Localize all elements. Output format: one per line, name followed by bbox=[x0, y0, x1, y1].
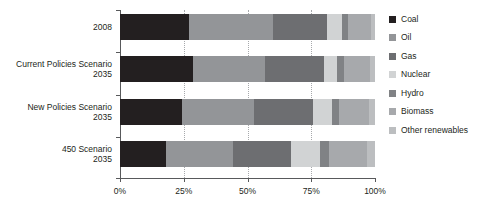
x-tick bbox=[184, 178, 185, 182]
bar-segment bbox=[339, 99, 368, 125]
category-label-0-line2: 2008 bbox=[93, 22, 112, 33]
bar-segment bbox=[291, 141, 320, 167]
bar-segment bbox=[369, 99, 375, 125]
category-axis-labels: 2008 Current Policies Scenario 2035 New … bbox=[0, 0, 118, 208]
x-tick-label: 100% bbox=[364, 186, 386, 196]
legend-swatch-icon bbox=[389, 71, 396, 78]
legend-swatch-icon bbox=[389, 16, 396, 23]
x-tick-label: 25% bbox=[175, 186, 192, 196]
bar-segment bbox=[370, 56, 375, 82]
stacked-bar-chart: 2008 Current Policies Scenario 2035 New … bbox=[0, 0, 484, 208]
bar-segment bbox=[344, 56, 370, 82]
y-tick bbox=[116, 52, 120, 53]
bar-segment bbox=[166, 141, 234, 167]
bar-segment bbox=[120, 99, 182, 125]
legend-label: Nuclear bbox=[401, 70, 430, 79]
bar-segment bbox=[193, 56, 266, 82]
legend-item: Hydro bbox=[389, 84, 484, 103]
category-label-2-line2: 2035 bbox=[27, 112, 112, 123]
bar-segment bbox=[313, 99, 332, 125]
bar-segment bbox=[348, 14, 371, 40]
category-label-2: New Policies Scenario 2035 bbox=[27, 102, 112, 123]
legend-swatch-icon bbox=[389, 53, 396, 60]
legend-swatch-icon bbox=[389, 127, 396, 134]
category-label-3: 450 Scenario 2035 bbox=[62, 144, 112, 165]
bar-row bbox=[120, 14, 375, 40]
legend-swatch-icon bbox=[389, 90, 396, 97]
legend-swatch-icon bbox=[389, 108, 396, 115]
category-label-1-line1: Current Policies Scenario bbox=[16, 59, 112, 70]
legend-item: Oil bbox=[389, 29, 484, 48]
plot-area: 0%25%50%75%100% bbox=[120, 10, 375, 178]
legend: CoalOilGasNuclearHydroBiomassOther renew… bbox=[389, 10, 484, 140]
legend-item: Coal bbox=[389, 10, 484, 29]
bar-segment bbox=[254, 99, 313, 125]
x-tick-label: 75% bbox=[303, 186, 320, 196]
x-tick-label: 0% bbox=[114, 186, 126, 196]
legend-label: Biomass bbox=[401, 107, 434, 116]
legend-label: Gas bbox=[401, 52, 417, 61]
bar-segment bbox=[189, 14, 273, 40]
bar-row bbox=[120, 56, 375, 82]
legend-item: Nuclear bbox=[389, 66, 484, 85]
bar-segment bbox=[233, 141, 290, 167]
y-tick bbox=[116, 178, 120, 179]
bar-segment bbox=[332, 99, 340, 125]
bar-row bbox=[120, 141, 375, 167]
x-tick bbox=[248, 178, 249, 182]
x-tick bbox=[311, 178, 312, 182]
x-tick-label: 50% bbox=[239, 186, 256, 196]
x-tick bbox=[120, 178, 121, 182]
bar-segment bbox=[337, 56, 345, 82]
bar-row bbox=[120, 99, 375, 125]
legend-item: Gas bbox=[389, 47, 484, 66]
bar-segment bbox=[367, 141, 375, 167]
bar-segment bbox=[327, 14, 342, 40]
bar-segment bbox=[371, 14, 375, 40]
y-tick bbox=[116, 95, 120, 96]
bar-segment bbox=[182, 99, 253, 125]
category-label-3-line2: 2035 bbox=[62, 154, 112, 165]
legend-label: Hydro bbox=[401, 89, 424, 98]
category-label-1-line2: 2035 bbox=[16, 69, 112, 80]
bar-segment bbox=[265, 56, 324, 82]
category-label-1: Current Policies Scenario 2035 bbox=[16, 59, 112, 80]
bar-segment bbox=[273, 14, 327, 40]
bar-segment bbox=[324, 56, 337, 82]
bar-segment bbox=[320, 141, 329, 167]
legend-item: Biomass bbox=[389, 103, 484, 122]
bar-segment bbox=[120, 56, 193, 82]
category-label-3-line1: 450 Scenario bbox=[62, 144, 112, 155]
legend-swatch-icon bbox=[389, 34, 396, 41]
legend-item: Other renewables bbox=[389, 121, 484, 140]
legend-label: Coal bbox=[401, 15, 418, 24]
bar-segment bbox=[329, 141, 367, 167]
category-label-2-line1: New Policies Scenario bbox=[27, 102, 112, 113]
y-tick bbox=[116, 10, 120, 11]
bar-segment bbox=[120, 14, 189, 40]
y-tick bbox=[116, 137, 120, 138]
legend-label: Oil bbox=[401, 33, 411, 42]
legend-label: Other renewables bbox=[401, 126, 468, 135]
category-label-0: 2008 bbox=[93, 22, 112, 33]
x-tick bbox=[375, 178, 376, 182]
bar-segment bbox=[120, 141, 166, 167]
